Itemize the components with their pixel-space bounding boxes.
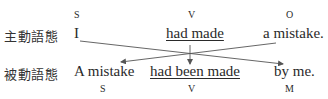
arrow-object-to-subject [121, 43, 276, 62]
arrow-i-to-by-me [80, 41, 283, 64]
transformation-arrows [0, 0, 328, 99]
